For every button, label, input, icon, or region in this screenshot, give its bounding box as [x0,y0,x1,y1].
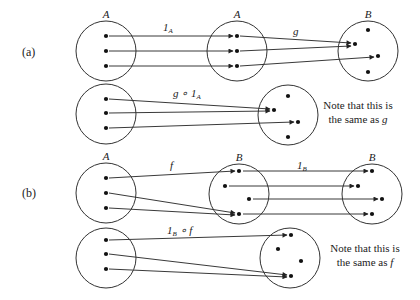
note-line-2: the same as g [329,113,388,125]
element-dot [104,34,108,38]
element-dot [104,64,108,68]
element-dot [104,252,108,256]
map-label: g [293,25,299,37]
set-a [76,163,136,223]
mapping-arrow [240,36,351,43]
element-dot [235,64,239,68]
element-dot [353,42,357,46]
set-name-label: A [233,8,241,20]
note-line-1: Note that this is [323,99,392,111]
map-label: f [170,159,175,171]
element-dot [235,49,239,53]
element-dot [380,197,384,201]
element-dot [289,274,293,278]
note-line-1: Note that this is [330,242,399,254]
element-dot [370,169,374,173]
set-name-label: B [369,151,376,163]
set-name-label: A [102,150,110,162]
map-label: 1B ∘ f [167,224,194,238]
element-dot [366,28,370,32]
set-name-label: B [365,8,372,20]
mapping-arrow [109,193,235,213]
element-dot [286,94,290,98]
set-b [338,21,398,81]
element-dot [235,34,239,38]
set-composite [76,84,136,144]
mapping-arrows [109,36,378,277]
set-circle [260,228,320,288]
set-composite [260,228,320,288]
labels: (a)AAB1Agg ∘ 1ANote that this isthe same… [22,8,400,268]
set-b [209,164,269,224]
map-label: 1B [297,159,308,173]
mapping-arrow [240,46,351,51]
mapping-arrow [109,269,287,277]
element-dot [237,212,241,216]
element-dot [104,126,108,130]
mapping-arrow [240,57,374,66]
set-circle [76,228,136,288]
element-dot [366,70,370,74]
element-dot [104,238,108,242]
part-label-b: (b) [22,186,36,200]
part-label-a: (a) [22,45,35,59]
element-dot [247,197,251,201]
element-dot [299,259,303,263]
set-composite [258,85,318,145]
set-composite [76,228,136,288]
set-b [342,164,402,224]
element-dot [376,54,380,58]
element-dot [104,111,108,115]
set-name-label: B [236,151,243,163]
element-dot [104,49,108,53]
map-label: 1A [163,21,174,35]
function-composition-diagram: (a)AAB1Agg ∘ 1ANote that this isthe same… [0,0,420,300]
element-dot [104,267,108,271]
note-line-2: the same as f [337,256,395,268]
mapping-arrow [109,235,287,240]
map-label: g ∘ 1A [173,87,202,101]
element-dot [104,191,108,195]
element-dot [370,212,374,216]
element-dot [289,233,293,237]
element-dot [276,247,280,251]
element-dot [356,184,360,188]
element-dot [104,97,108,101]
mapping-arrow [109,122,294,128]
element-dot [237,169,241,173]
mapping-arrow [109,111,270,113]
element-dot [272,108,276,112]
set-name-label: A [102,8,110,20]
element-dot [223,184,227,188]
element-dot [104,176,108,180]
element-dot [296,120,300,124]
element-dot [104,206,108,210]
element-dot [286,135,290,139]
